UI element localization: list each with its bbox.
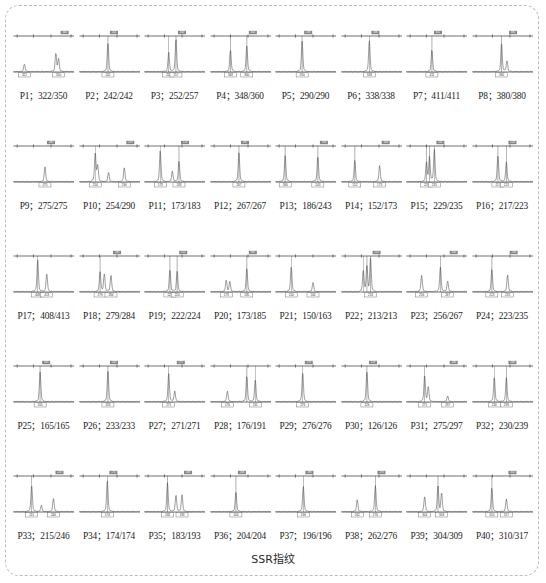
electropherogram-plot[interactable]: 260256267 [404,246,470,308]
electropherogram-plot[interactable]: 276276 [273,356,339,418]
ssr-panel[interactable]: 354348360P4；348/360 [208,26,274,136]
electropherogram-plot[interactable]: 411411 [404,26,470,88]
allele-label-box[interactable]: 230 [488,403,500,407]
allele-label-box[interactable]: 290 [118,183,130,187]
electropherogram-plot[interactable]: 271271 [142,356,208,418]
ssr-panel[interactable]: 276276P29；276/276 [273,356,339,466]
allele-label-box[interactable]: 275 [419,403,431,407]
allele-label-box[interactable]: 310 [485,513,497,517]
allele-label-box[interactable]: 191 [249,403,261,407]
allele-label-box[interactable]: 297 [442,403,454,407]
electropherogram-plot[interactable]: 220217223 [470,136,536,198]
allele-label-box[interactable]: 380 [495,73,507,77]
allele-label-box[interactable]: 267 [232,183,244,187]
allele-label-box[interactable]: 290 [296,73,308,77]
electropherogram-plot[interactable]: 190186243 [273,136,339,198]
ssr-panel[interactable]: 220217223P16；217/223 [470,136,536,246]
allele-label-box[interactable]: 213 [364,293,376,297]
electropherogram-plot[interactable]: 165165 [11,356,77,418]
allele-label-box[interactable]: 239 [500,403,512,407]
allele-label-box[interactable]: 271 [163,403,175,407]
allele-label-box[interactable]: 174 [101,513,113,517]
electropherogram-plot[interactable]: 240233 [77,356,143,418]
allele-label-box[interactable]: 176 [221,403,233,407]
ssr-panel[interactable]: 271271P27；271/271 [142,356,208,466]
electropherogram-plot[interactable]: 290290 [273,26,339,88]
allele-label-box[interactable]: 126 [360,403,372,407]
ssr-panel[interactable]: 280279284P18；279/284 [77,246,143,356]
electropherogram-plot[interactable]: 176173183 [142,136,208,198]
allele-label-box[interactable]: 276 [369,513,381,517]
allele-label-box[interactable]: 223 [485,293,497,297]
allele-label-box[interactable]: 186 [279,183,291,187]
ssr-panel[interactable]: 185173185P20；173/185 [208,246,274,356]
ssr-panel[interactable]: 280275P9；275/275 [11,136,77,246]
electropherogram-plot[interactable]: 204204 [208,466,274,528]
electropherogram-plot[interactable]: 230223235 [470,246,536,308]
electropherogram-plot[interactable]: 190183193 [142,466,208,528]
electropherogram-plot[interactable]: 338338 [339,26,405,88]
electropherogram-plot[interactable]: 174174 [77,466,143,528]
allele-label-box[interactable]: 304 [419,513,431,517]
ssr-panel[interactable]: 411411P7；411/411 [404,26,470,136]
electropherogram-plot[interactable]: 340322350 [11,26,77,88]
allele-label-box[interactable]: 173 [220,293,232,297]
electropherogram-plot[interactable]: 126126 [339,356,405,418]
allele-label-box[interactable]: 193 [176,513,188,517]
allele-label-box[interactable]: 233 [101,403,113,407]
ssr-panel[interactable]: 290290P5；290/290 [273,26,339,136]
allele-label-box[interactable]: 284 [104,293,116,297]
electropherogram-plot[interactable]: 160152173 [339,136,405,198]
ssr-panel[interactable]: 408413P17；408/413 [11,246,77,356]
electropherogram-plot[interactable]: 176191 [208,356,274,418]
electropherogram-plot[interactable]: 267267 [208,136,274,198]
ssr-panel[interactable]: 230223235P24；223/235 [470,246,536,356]
allele-label-box[interactable]: 173 [373,183,385,187]
allele-label-box[interactable]: 242 [101,73,113,77]
electropherogram-plot[interactable]: 280279284 [77,246,143,308]
allele-label-box[interactable]: 317 [500,513,512,517]
allele-label-box[interactable]: 348 [224,73,236,77]
allele-label-box[interactable]: 413 [41,293,53,297]
ssr-panel[interactable]: 240233P26；233/233 [77,356,143,466]
ssr-panel[interactable]: 176191P28；176/191 [208,356,274,466]
allele-label-box[interactable]: 163 [307,293,319,297]
ssr-panel[interactable]: 380380P8；380/380 [470,26,536,136]
ssr-panel[interactable]: 270254290P10；254/290 [77,136,143,246]
allele-label-box[interactable]: 223 [500,183,512,187]
allele-label-box[interactable]: 262 [351,513,363,517]
allele-label-box[interactable]: 243 [312,183,324,187]
electropherogram-plot[interactable]: 150163 [273,246,339,308]
electropherogram-plot[interactable]: 310310317 [470,466,536,528]
allele-label-box[interactable]: 246 [47,513,59,517]
ssr-panel[interactable]: 126126P30；126/126 [339,356,405,466]
allele-label-box[interactable]: 360 [240,73,252,77]
electropherogram-plot[interactable]: 408413 [11,246,77,308]
ssr-panel[interactable]: 236230239P32；230/239 [470,356,536,466]
ssr-panel[interactable]: 190186243P13；186/243 [273,136,339,246]
ssr-panel[interactable]: 338338P6；338/338 [339,26,405,136]
allele-label-box[interactable]: 257 [170,73,182,77]
ssr-panel[interactable]: 242242P2；242/242 [77,26,143,136]
ssr-panel[interactable]: 260256267P23；256/267 [404,246,470,356]
allele-label-box[interactable]: 267 [442,293,454,297]
allele-label-box[interactable]: 350 [53,73,65,77]
allele-label-box[interactable]: 152 [348,183,360,187]
electropherogram-plot[interactable]: 280275297 [404,356,470,418]
electropherogram-plot[interactable]: 276262276 [339,466,405,528]
allele-label-box[interactable]: 338 [363,73,375,77]
allele-label-box[interactable]: 276 [297,403,309,407]
electropherogram-plot[interactable]: 196196 [273,466,339,528]
ssr-panel[interactable]: 176173183P11；173/183 [142,136,208,246]
allele-label-box[interactable]: 235 [428,183,440,187]
electropherogram-plot[interactable]: 232229235 [404,136,470,198]
ssr-panel[interactable]: 340322350P1；322/350 [11,26,77,136]
electropherogram-plot[interactable]: 242242 [77,26,143,88]
allele-label-box[interactable]: 196 [297,513,309,517]
electropherogram-plot[interactable]: 354348360 [208,26,274,88]
allele-label-box[interactable]: 322 [18,73,30,77]
electropherogram-plot[interactable]: 304309 [404,466,470,528]
electropherogram-plot[interactable]: 220215246 [11,466,77,528]
ssr-panel[interactable]: 260252257P3；252/257 [142,26,208,136]
allele-label-box[interactable]: 411 [426,73,438,77]
